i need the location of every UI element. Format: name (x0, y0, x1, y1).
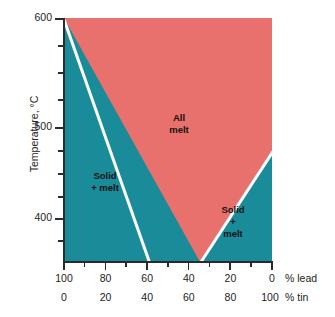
label-all-melt-line1: All (149, 112, 209, 124)
label-solid-melt-left: Solid + melt (71, 170, 139, 194)
x-tick-label-lead-40: 40 (169, 272, 209, 284)
phase-diagram-figure: Temperature, °C All melt Solid + melt So… (0, 0, 335, 317)
y-tick-400 (55, 218, 64, 220)
x-tick-lead-20 (229, 262, 231, 270)
x-tick-lead-80 (105, 262, 107, 270)
x-tick-label-tin-0: 0 (44, 291, 84, 303)
x-tick-label-lead-20: 20 (210, 272, 250, 284)
x-tick-label-lead-60: 60 (127, 272, 167, 284)
y-tick-minor-575 (58, 45, 64, 47)
x-tick-label-tin-60: 60 (169, 291, 209, 303)
x-tick-label-lead-80: 80 (86, 272, 126, 284)
y-tick-label-400: 400 (34, 211, 52, 223)
x-tick-label-tin-20: 20 (86, 291, 126, 303)
x-tick-label-lead-100: 100 (44, 272, 84, 284)
x-tick-lead-40 (188, 262, 190, 270)
x-tick-minor-lead-30 (209, 262, 211, 267)
label-solid-melt-right-line2: + (204, 216, 262, 228)
y-tick-minor-450 (58, 173, 64, 175)
y-tick-minor-525 (58, 99, 64, 101)
label-solid-melt-right-line1: Solid (204, 204, 262, 216)
x-tick-label-tin-100: 100 (250, 291, 290, 303)
x-axis-name-tin: % tin (285, 291, 308, 303)
y-axis-line (63, 18, 65, 263)
label-solid-melt-right: Solid + melt (204, 204, 262, 240)
y-tick-label-600: 600 (34, 11, 52, 23)
y-tick-label-500: 500 (34, 120, 52, 132)
x-tick-label-tin-40: 40 (127, 291, 167, 303)
label-solid-melt-left-line2: + melt (71, 182, 139, 194)
x-tick-minor-lead-90 (84, 262, 86, 267)
label-all-melt-line2: melt (149, 124, 209, 136)
x-tick-lead-100 (63, 262, 65, 270)
y-tick-minor-375 (58, 240, 64, 242)
plot-area: All melt Solid + melt Solid + melt (64, 18, 272, 262)
y-tick-600 (55, 18, 64, 20)
label-solid-melt-right-line3: melt (204, 228, 262, 240)
x-tick-lead-0 (271, 262, 273, 270)
x-tick-minor-lead-10 (250, 262, 252, 267)
y-axis-title: Temperature, °C (28, 59, 40, 209)
x-axis-name-lead: % lead (285, 272, 317, 284)
x-tick-label-tin-80: 80 (210, 291, 250, 303)
x-tick-minor-lead-50 (167, 262, 169, 267)
y-tick-minor-425 (58, 196, 64, 198)
label-solid-melt-left-line1: Solid (71, 170, 139, 182)
y-tick-minor-550 (58, 72, 64, 74)
x-tick-lead-60 (146, 262, 148, 270)
y-tick-minor-475 (58, 150, 64, 152)
label-all-melt: All melt (149, 112, 209, 136)
y-tick-500 (55, 127, 64, 129)
x-tick-minor-lead-70 (125, 262, 127, 267)
